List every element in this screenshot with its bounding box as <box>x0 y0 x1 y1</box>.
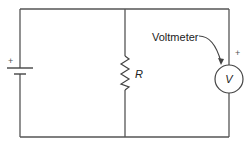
resistor-symbol: R <box>121 56 143 90</box>
voltmeter-plus-sign: + <box>235 48 240 58</box>
resistor-zigzag-icon <box>121 56 129 90</box>
callout-arrow-icon <box>199 36 221 62</box>
voltmeter-symbol-label: V <box>225 73 234 85</box>
circuit-diagram: + R V + Voltmeter <box>0 0 252 142</box>
circuit-wires <box>20 9 229 137</box>
resistor-label: R <box>135 68 143 80</box>
voltmeter-callout-label: Voltmeter <box>152 31 199 43</box>
callout-arrowhead-icon <box>218 58 224 65</box>
battery-plus-sign: + <box>8 56 13 66</box>
